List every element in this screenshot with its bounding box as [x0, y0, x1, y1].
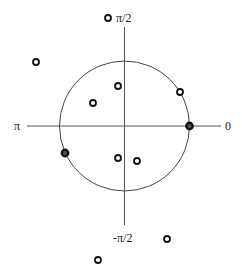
point-marker	[105, 15, 111, 21]
label-minus-pi-over-2: -π/2	[113, 231, 132, 245]
label-pi: π	[14, 119, 20, 133]
point-marker	[186, 123, 192, 129]
point-marker	[177, 89, 183, 95]
point-marker	[62, 150, 68, 156]
point-marker	[95, 257, 101, 263]
unit-circle-diagram: π/2 0 π -π/2	[0, 0, 242, 276]
point-marker	[115, 155, 121, 161]
label-zero: 0	[225, 119, 231, 133]
point-marker	[134, 158, 140, 164]
label-pi-over-2: π/2	[116, 11, 131, 25]
point-marker	[115, 83, 121, 89]
point-marker	[33, 59, 39, 65]
point-marker	[164, 236, 170, 242]
point-markers	[33, 15, 193, 263]
point-marker	[90, 100, 96, 106]
